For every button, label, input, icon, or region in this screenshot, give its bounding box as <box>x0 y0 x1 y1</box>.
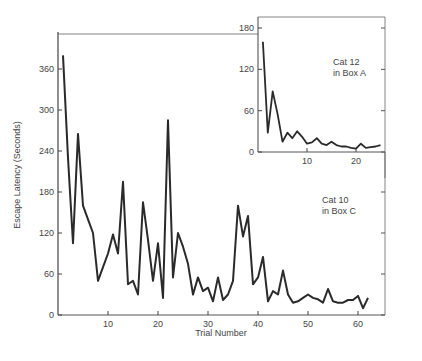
inset-background <box>258 17 385 152</box>
y-tick-label: 0 <box>49 310 54 320</box>
y-tick-label: 0 <box>249 147 254 157</box>
inset-chart: 060120180 1020 Cat 12 in Box A <box>239 17 385 178</box>
x-tick-label: 60 <box>353 319 363 329</box>
y-tick-label: 60 <box>244 106 254 116</box>
main-annotation-line2: in Box C <box>322 206 357 216</box>
x-tick-label: 40 <box>253 319 263 329</box>
y-tick-label: 120 <box>39 228 54 238</box>
x-tick-label: 50 <box>303 319 313 329</box>
inset-annotation-line1: Cat 12 <box>333 57 360 67</box>
main-right-ticks <box>381 192 385 315</box>
x-tick-label: 10 <box>302 156 312 166</box>
y-tick-label: 360 <box>39 64 54 74</box>
x-tick-label: 20 <box>153 319 163 329</box>
chart-canvas: 060120180240300360 102030405060 Trial Nu… <box>0 0 422 361</box>
y-tick-label: 300 <box>39 105 54 115</box>
main-y-axis-label: Escape Latency (Seconds) <box>12 121 22 229</box>
y-tick-label: 180 <box>239 23 254 33</box>
x-tick-label: 20 <box>351 156 361 166</box>
y-tick-label: 60 <box>44 269 54 279</box>
inset-annotation-line2: in Box A <box>333 68 366 78</box>
main-x-axis-label: Trial Number <box>195 328 247 338</box>
main-annotation-line1: Cat 10 <box>322 195 349 205</box>
y-tick-label: 180 <box>39 187 54 197</box>
y-tick-label: 240 <box>39 146 54 156</box>
x-tick-label: 10 <box>103 319 113 329</box>
y-tick-label: 120 <box>239 64 254 74</box>
main-x-ticks: 102030405060 <box>103 311 363 329</box>
